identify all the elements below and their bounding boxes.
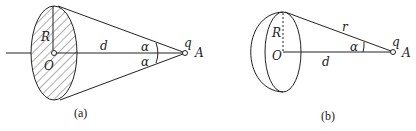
label-d: d — [322, 55, 330, 69]
label-O: O — [272, 49, 282, 63]
label-q: q — [392, 35, 400, 49]
cone-line-bottom — [60, 54, 183, 100]
diagram-canvas: R O d α α q A (a) R O r d α q A (b) — [0, 0, 416, 131]
label-R: R — [271, 26, 281, 40]
label-alpha: α — [350, 40, 358, 54]
label-A: A — [194, 46, 204, 60]
label-R: R — [40, 30, 50, 44]
center-point-o — [52, 51, 57, 56]
label-alpha-top: α — [141, 40, 149, 54]
angle-arc — [363, 42, 364, 52]
label-alpha-bottom: α — [141, 55, 149, 69]
label-O: O — [44, 59, 54, 73]
figure-a: R O d α α q A (a) — [6, 6, 204, 120]
charge-point-a — [391, 50, 396, 55]
caption-b: (b) — [321, 109, 335, 123]
label-q: q — [184, 36, 192, 50]
caption-a: (a) — [74, 106, 87, 120]
label-d: d — [100, 39, 108, 53]
label-r: r — [342, 20, 349, 34]
charge-point-a — [183, 51, 188, 56]
figure-b: R O r d α q A (b) — [251, 12, 411, 123]
label-A: A — [401, 46, 411, 60]
